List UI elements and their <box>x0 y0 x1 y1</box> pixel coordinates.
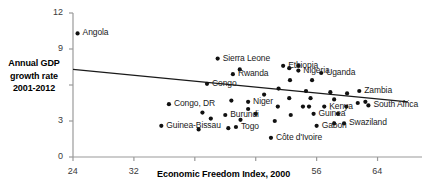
x-tick-label: 24 <box>68 166 78 176</box>
data-point-labeled <box>223 113 227 117</box>
x-tick-label: 56 <box>311 166 321 176</box>
data-point <box>307 105 311 109</box>
y-axis-title-line-2: growth rate <box>2 70 66 83</box>
data-point <box>301 105 305 109</box>
data-point <box>200 111 204 115</box>
x-tick-label: 32 <box>129 166 139 176</box>
data-point <box>276 87 280 91</box>
data-point <box>273 119 277 123</box>
x-axis-ticks <box>73 157 378 161</box>
data-point <box>310 78 314 82</box>
data-point-label: Zambia <box>364 85 392 95</box>
data-point-label: Congo <box>212 78 237 88</box>
data-point-labeled <box>234 125 238 129</box>
data-point-label: Niger <box>253 96 273 106</box>
data-point <box>226 126 230 130</box>
data-point-labeled <box>216 57 220 61</box>
data-point-label: Congo, DR <box>174 98 215 108</box>
data-point <box>308 96 312 100</box>
y-axis-title-line-1: Annual GDP <box>2 57 66 70</box>
data-point-label: Côte d'Ivoire <box>276 132 322 142</box>
data-point-label: Gabon <box>322 120 347 130</box>
data-point-labeled <box>357 89 361 93</box>
data-point-label: Sierra Leone <box>223 53 270 63</box>
data-point-label: Burundi <box>230 109 259 119</box>
data-point <box>287 96 291 100</box>
y-tick-label: 12 <box>53 7 63 17</box>
data-point-labeled <box>315 124 319 128</box>
data-point <box>328 90 332 94</box>
data-point <box>289 113 293 117</box>
x-axis-title: Economic Freedom Index, 2000 <box>157 169 290 179</box>
y-axis-title-line-3: 2001-2012 <box>2 82 66 95</box>
data-point <box>304 89 308 93</box>
data-point-labeled <box>281 64 285 68</box>
scatter-chart: Annual GDP growth rate 2001-2012 Economi… <box>0 0 430 190</box>
plot-area <box>0 0 430 190</box>
data-point-labeled <box>269 136 273 140</box>
data-point-labeled <box>231 72 235 76</box>
y-tick-label: 3 <box>58 115 63 125</box>
data-point-labeled <box>159 124 163 128</box>
data-point-label: Togo <box>241 121 259 131</box>
data-point <box>229 99 233 103</box>
data-point-label: Angola <box>83 27 109 37</box>
data-point-labeled <box>366 103 370 107</box>
data-point-labeled <box>75 31 79 35</box>
data-point-label: Rwanda <box>238 68 269 78</box>
data-point-labeled <box>167 102 171 106</box>
data-point-label: Guinea <box>319 108 346 118</box>
data-point-label: Guinea-Bissau <box>166 120 220 130</box>
data-point <box>288 78 292 82</box>
y-axis-title: Annual GDP growth rate 2001-2012 <box>2 57 66 95</box>
x-tick-label: 64 <box>372 166 382 176</box>
y-tick-label: 0 <box>58 151 63 161</box>
data-point-labeled <box>246 100 250 104</box>
y-tick-label: 9 <box>58 43 63 53</box>
data-point <box>363 100 367 104</box>
data-point <box>356 101 360 105</box>
data-point-labeled <box>205 82 209 86</box>
data-point-labeled <box>311 112 315 116</box>
data-point <box>276 105 280 109</box>
data-point <box>345 91 349 95</box>
data-point-label: Swaziland <box>349 117 387 127</box>
data-point-label: South Africa <box>373 99 418 109</box>
data-point-label: Uganda <box>326 67 355 77</box>
